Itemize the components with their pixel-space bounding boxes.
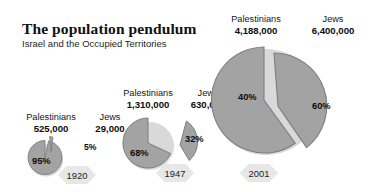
percent-2001-palestinians: 40%: [238, 92, 257, 102]
percent-1920-palestinians: 95%: [32, 156, 51, 166]
page-subtitle: Israel and the Occupied Territories: [22, 38, 167, 49]
percent-2001-jews: 60%: [312, 101, 331, 111]
percent-1947-jews: 32%: [185, 134, 204, 144]
label-1947-palestinians: Palestinians 1,310,000: [110, 88, 186, 111]
percent-1920-jews: 5%: [84, 142, 96, 152]
percent-1947-palestinians: 68%: [130, 148, 149, 158]
group-name: Jews: [298, 14, 368, 25]
infographic-canvas: The population pendulum Israel and the O…: [0, 0, 374, 192]
group-value: 6,400,000: [298, 25, 368, 37]
group-name: Palestinians: [216, 14, 296, 25]
pie-2001-svg: [208, 40, 374, 180]
group-name: Palestinians: [110, 88, 186, 99]
label-2001-jews: Jews 6,400,000: [298, 14, 368, 37]
group-value: 1,310,000: [110, 99, 186, 111]
label-2001-palestinians: Palestinians 4,188,000: [216, 14, 296, 37]
label-1920-palestinians: Palestinians 525,000: [14, 112, 88, 135]
page-title: The population pendulum: [22, 20, 197, 38]
group-value: 4,188,000: [216, 25, 296, 37]
pie-chart-2001: [208, 40, 374, 180]
group-name: Palestinians: [14, 112, 88, 123]
group-value: 525,000: [14, 123, 88, 135]
